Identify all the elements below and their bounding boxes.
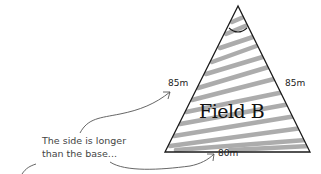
arrow-to-side — [80, 92, 170, 133]
diagram-canvas: 85m 85m 80m Field B The side is longer t… — [0, 0, 321, 174]
annotation-line-1: The side is longer — [42, 134, 152, 147]
field-title: Field B — [199, 100, 264, 122]
annotation-tail-stroke — [22, 164, 36, 174]
annotation-note: The side is longer than the base... — [42, 134, 152, 160]
annotation-line-2: than the base... — [42, 147, 152, 160]
left-side-length: 85m — [168, 78, 188, 88]
base-length: 80m — [218, 148, 238, 158]
right-side-length: 85m — [285, 78, 305, 88]
